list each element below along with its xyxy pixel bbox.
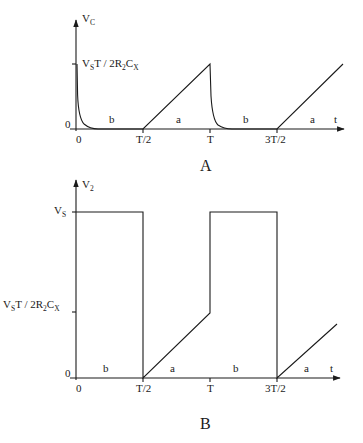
panel-a: VC VST / 2R2CX 0 t 0 T/2 T 3T/2 b a b a …	[65, 12, 344, 174]
x-tick-label-b: 3T/2	[265, 382, 286, 394]
y-axis-label-a: VC	[82, 12, 95, 27]
x-tick-label-a: T/2	[136, 133, 151, 145]
x-tick-label-a: T	[207, 133, 214, 145]
timing-diagram: VC VST / 2R2CX 0 t 0 T/2 T 3T/2 b a b a …	[0, 0, 363, 443]
x-axis-label-b: t	[330, 362, 333, 374]
panel-b: V2 VS VST / 2R2CX 0 t 0 T/2 T 3T/2 b a b…	[3, 178, 340, 432]
phase-label-b: b	[103, 362, 109, 374]
y-tick-label-b: VST / 2R2CX	[3, 298, 60, 313]
caption-b: B	[200, 415, 211, 432]
caption-a: A	[200, 157, 212, 174]
y-tick-top-label-b: VS	[54, 204, 66, 219]
y-axis-label-b: V2	[82, 178, 94, 193]
waveform-vc	[77, 64, 343, 129]
phase-label-a: b	[109, 113, 115, 125]
phase-label-a: a	[176, 113, 181, 125]
zero-label-b: 0	[65, 367, 71, 379]
zero-label-a: 0	[65, 118, 71, 130]
waveform-v2	[76, 212, 337, 378]
x-tick-label-a: 0	[76, 133, 82, 145]
x-axis-label-a: t	[334, 113, 337, 125]
phase-label-b: a	[170, 362, 175, 374]
phase-label-a: a	[310, 113, 315, 125]
x-tick-label-a: 3T/2	[265, 133, 286, 145]
x-tick-label-b: 0	[76, 382, 82, 394]
phase-label-a: b	[243, 113, 249, 125]
x-tick-label-b: T/2	[136, 382, 151, 394]
x-tick-label-b: T	[207, 382, 214, 394]
y-tick-label-a: VST / 2R2CX	[82, 57, 139, 72]
phase-label-b: a	[304, 362, 309, 374]
phase-label-b: b	[233, 362, 239, 374]
